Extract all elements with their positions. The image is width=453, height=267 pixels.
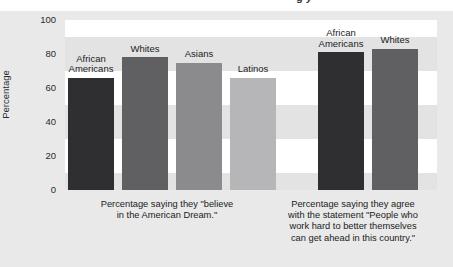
y-axis-tick-label: 100 bbox=[20, 14, 56, 25]
bar-label: Whites bbox=[360, 35, 430, 46]
y-axis-tick-label: 60 bbox=[20, 82, 56, 93]
bar-label: Asians bbox=[164, 49, 234, 60]
y-axis-title: Percentage bbox=[0, 70, 11, 119]
caption-right: Percentage saying they agree with the st… bbox=[258, 199, 448, 244]
clipped-heading-strip: g y bbox=[0, 0, 453, 11]
y-axis-tick-label: 80 bbox=[20, 48, 56, 59]
bar bbox=[176, 63, 222, 191]
bar-label: Latinos bbox=[218, 64, 288, 75]
y-axis-tick-label: 0 bbox=[20, 184, 56, 195]
y-axis-tick-label: 40 bbox=[20, 116, 56, 127]
bar bbox=[230, 78, 276, 190]
chart-panel: Percentage 100806040200 African American… bbox=[0, 11, 453, 256]
chart-screenshot: g y Percentage 100806040200 African Amer… bbox=[0, 0, 453, 267]
bar-label: African Americans bbox=[56, 54, 126, 75]
bar bbox=[318, 52, 364, 190]
caption-left: Percentage saying they "believe in the A… bbox=[72, 199, 262, 221]
clipped-heading-text: g y bbox=[296, 0, 312, 3]
bar bbox=[372, 49, 418, 190]
bar bbox=[68, 78, 114, 190]
y-axis-tick-label: 20 bbox=[20, 150, 56, 161]
bar bbox=[122, 57, 168, 190]
